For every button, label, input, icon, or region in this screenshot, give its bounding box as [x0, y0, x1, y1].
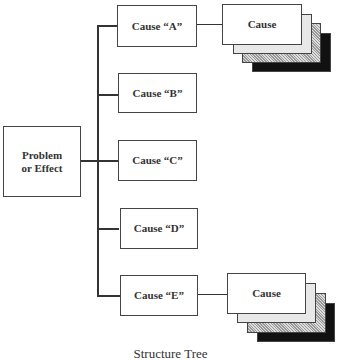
branch-c — [97, 160, 119, 162]
cause-e-sub-box: Cause — [227, 273, 306, 314]
cause-b-box: Cause “B” — [118, 73, 197, 113]
diagram-caption: Structure Tree — [0, 346, 341, 360]
cause-a-box: Cause “A” — [117, 5, 197, 47]
cause-d-box: Cause “D” — [120, 208, 198, 249]
branch-b — [97, 94, 119, 96]
cause-e-box: Cause “E” — [120, 275, 198, 316]
branch-e — [97, 295, 120, 297]
sub-connector-a — [196, 24, 223, 25]
sub-connector-e — [198, 294, 227, 295]
cause-a-sub-box: Cause — [222, 4, 302, 45]
problem-box: Problem or Effect — [3, 126, 81, 197]
root-connector — [80, 160, 98, 162]
cause-c-box: Cause “C” — [118, 140, 197, 181]
branch-d — [97, 228, 119, 230]
branch-a — [97, 25, 119, 27]
